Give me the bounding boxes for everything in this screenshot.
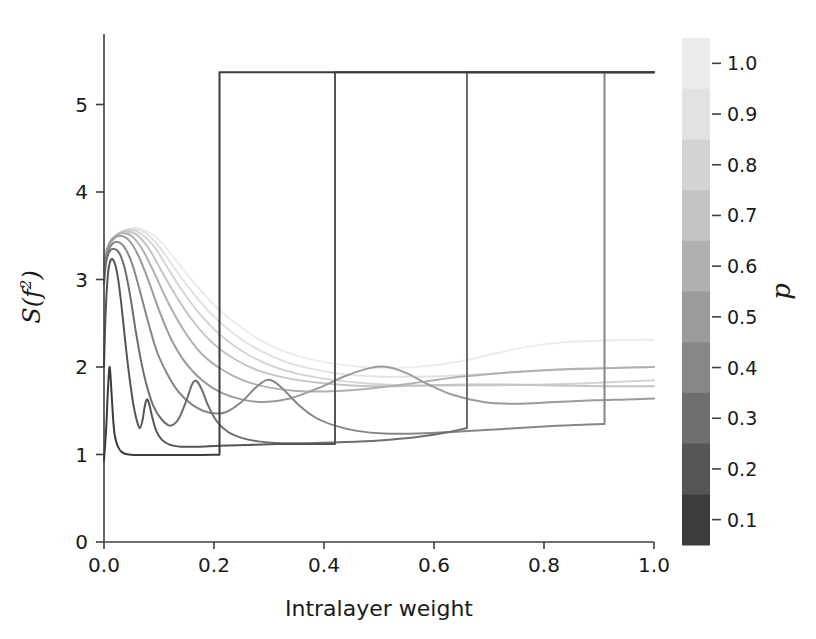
x-tick-label: 0.6 bbox=[418, 553, 450, 577]
x-tick-label: 0.4 bbox=[308, 553, 340, 577]
series-line bbox=[104, 230, 654, 386]
x-axis-title: Intralayer weight bbox=[285, 596, 473, 621]
colorbar-band bbox=[682, 444, 710, 495]
colorbar-band bbox=[682, 342, 710, 393]
colorbar-tick-label: 1.0 bbox=[727, 52, 757, 74]
x-axis: 0.00.20.40.60.81.0 bbox=[88, 542, 670, 577]
chart-svg: 0.00.20.40.60.81.0 012345 Intralayer wei… bbox=[0, 0, 816, 639]
colorbar-band bbox=[682, 393, 710, 444]
series-line bbox=[104, 72, 654, 434]
x-axis-ticks bbox=[104, 542, 654, 549]
colorbar-tick-label: 0.3 bbox=[727, 407, 757, 429]
y-tick-label: 3 bbox=[75, 268, 88, 292]
x-axis-ticklabels: 0.00.20.40.60.81.0 bbox=[88, 553, 670, 577]
colorbar-band bbox=[682, 38, 710, 89]
y-tick-label: 1 bbox=[75, 443, 88, 467]
y-axis-title: S(f2) bbox=[17, 270, 46, 324]
colorbar-band bbox=[682, 139, 710, 190]
colorbar-band bbox=[682, 190, 710, 241]
colorbar-tick-label: 0.8 bbox=[727, 154, 757, 176]
colorbar-band bbox=[682, 292, 710, 343]
colorbar-tick-label: 0.9 bbox=[727, 103, 757, 125]
y-axis-ticks bbox=[96, 105, 104, 543]
y-title-superscript: 2 bbox=[17, 280, 35, 291]
colorbar-tick-label: 0.2 bbox=[727, 458, 757, 480]
y-title-tail-text: ) bbox=[18, 270, 46, 280]
colorbar-tick-label: 0.1 bbox=[727, 509, 757, 531]
y-tick-label: 5 bbox=[75, 93, 88, 117]
x-tick-label: 1.0 bbox=[638, 553, 670, 577]
colorbar: 1.00.90.80.70.60.50.40.30.20.1 p bbox=[682, 38, 796, 546]
colorbar-tick-label: 0.7 bbox=[727, 204, 757, 226]
figure-canvas: 0.00.20.40.60.81.0 012345 Intralayer wei… bbox=[0, 0, 816, 639]
y-tick-label: 0 bbox=[75, 530, 88, 554]
y-axis: 012345 bbox=[75, 34, 104, 554]
colorbar-tick-label: 0.6 bbox=[727, 255, 757, 277]
colorbar-tick-label: 0.4 bbox=[727, 357, 757, 379]
y-tick-label: 2 bbox=[75, 355, 88, 379]
x-tick-label: 0.2 bbox=[198, 553, 230, 577]
x-tick-label: 0.0 bbox=[88, 553, 120, 577]
series-line bbox=[104, 229, 654, 377]
y-axis-title-text: S(f2) bbox=[17, 270, 46, 324]
colorbar-title: p bbox=[766, 283, 796, 300]
series-line bbox=[104, 236, 654, 404]
y-title-main-text: S(f bbox=[18, 285, 46, 324]
colorbar-band bbox=[682, 494, 710, 545]
plot-curves bbox=[104, 72, 654, 461]
y-axis-ticklabels: 012345 bbox=[75, 93, 88, 555]
colorbar-ticklabels: 1.00.90.80.70.60.50.40.30.20.1 bbox=[727, 52, 757, 530]
series-line bbox=[104, 72, 654, 447]
colorbar-band bbox=[682, 89, 710, 140]
colorbar-bands bbox=[682, 38, 710, 546]
colorbar-tick-label: 0.5 bbox=[727, 306, 757, 328]
x-tick-label: 0.8 bbox=[528, 553, 560, 577]
colorbar-band bbox=[682, 241, 710, 292]
colorbar-ticks bbox=[712, 63, 721, 519]
y-tick-label: 4 bbox=[75, 180, 88, 204]
